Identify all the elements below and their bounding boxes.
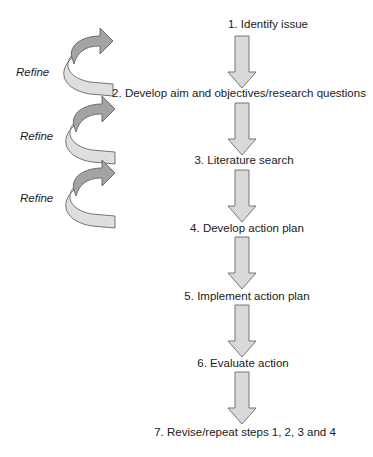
down-arrow-2 [228, 103, 256, 155]
down-arrow-5 [228, 305, 256, 357]
step-3-literature-search: 3. Literature search [194, 154, 293, 166]
step-2-develop-aim: 2. Develop aim and objectives/research q… [112, 87, 366, 99]
down-arrow-3 [228, 170, 256, 222]
refine-label-1: Refine [16, 66, 49, 78]
step-6-evaluate-action: 6. Evaluate action [197, 357, 288, 369]
refine-label-3: Refine [20, 192, 53, 204]
spiral-refine-arrow-3 [66, 160, 115, 228]
diagram-graphics [0, 0, 373, 457]
step-7-revise-repeat: 7. Revise/repeat steps 1, 2, 3 and 4 [154, 426, 336, 438]
spiral-refine-arrow-2 [66, 96, 115, 164]
down-arrow-4 [228, 237, 256, 289]
spiral-refine-arrow-1 [64, 28, 113, 96]
down-arrow-1 [228, 36, 256, 88]
step-1-identify-issue: 1. Identify issue [228, 18, 308, 30]
down-arrow-6 [228, 372, 256, 424]
step-4-develop-action-plan: 4. Develop action plan [190, 222, 304, 234]
refine-label-2: Refine [20, 130, 53, 142]
step-5-implement-action-plan: 5. Implement action plan [184, 290, 309, 302]
